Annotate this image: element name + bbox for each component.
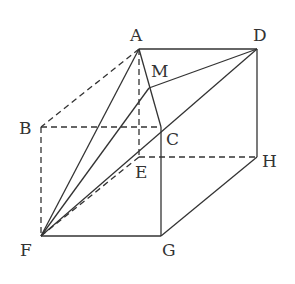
edge-AF-solid <box>41 49 139 236</box>
label-D: D <box>253 27 267 44</box>
label-A: A <box>130 27 142 44</box>
label-G: G <box>162 242 176 259</box>
label-C: C <box>166 131 179 148</box>
label-H: H <box>262 153 277 170</box>
label-M: M <box>151 63 168 80</box>
label-B: B <box>19 120 32 137</box>
edge-HG-solid <box>161 157 257 236</box>
label-E: E <box>135 164 147 181</box>
edge-AB-dashed <box>41 49 139 127</box>
cube-lines <box>0 0 295 284</box>
cube-diagram: A D M B C E H F G <box>0 0 295 284</box>
edge-DF-solid <box>41 49 257 236</box>
edge-MF-solid <box>41 88 149 236</box>
label-F: F <box>20 242 32 259</box>
